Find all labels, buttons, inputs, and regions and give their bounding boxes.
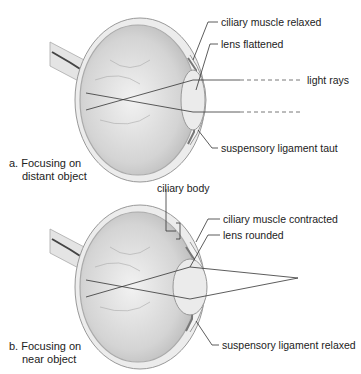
panel-distant-focus: ciliary muscle relaxed lens flattened li…	[0, 0, 361, 187]
caption-b-line2: near object	[9, 353, 81, 366]
label-ciliary-body: ciliary body	[157, 182, 210, 194]
label-suspensory-ligament-taut: suspensory ligament taut	[221, 142, 338, 154]
caption-panel-a: a. Focusing on distant object	[9, 157, 87, 183]
label-ciliary-muscle-relaxed: ciliary muscle relaxed	[221, 16, 321, 28]
caption-a-line2: distant object	[9, 170, 87, 183]
label-light-rays: light rays	[307, 74, 349, 86]
caption-panel-b: b. Focusing on near object	[9, 340, 81, 366]
label-lens-rounded: lens rounded	[223, 229, 284, 241]
panel-near-focus: ciliary body ciliary muscle contracted l…	[0, 187, 361, 374]
label-ciliary-muscle-contracted: ciliary muscle contracted	[223, 213, 338, 225]
caption-b-line1: b. Focusing on	[9, 340, 81, 353]
label-lens-flattened: lens flattened	[221, 38, 283, 50]
caption-a-line1: a. Focusing on	[9, 157, 87, 170]
label-suspensory-ligament-relaxed: suspensory ligament relaxed	[222, 339, 356, 351]
